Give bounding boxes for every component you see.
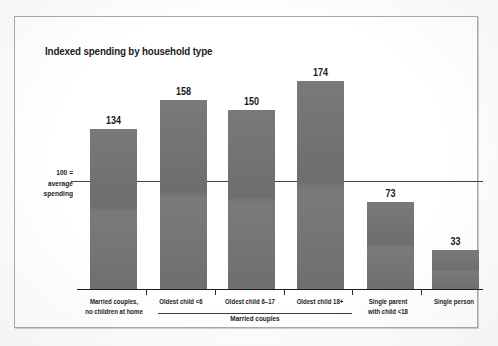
axis-tick: [352, 289, 353, 295]
chart-frame: Indexed spending by household type 100 =…: [14, 16, 478, 328]
axis-tick: [146, 289, 147, 295]
bar[interactable]: [90, 129, 137, 290]
reference-line-label-line-3: spending: [36, 189, 73, 200]
bar-value-label: 33: [434, 236, 476, 247]
bar[interactable]: [367, 202, 414, 290]
chart-title: Indexed spending by household type: [45, 45, 212, 57]
reference-line-label-line-2: average: [36, 179, 73, 190]
bar[interactable]: [228, 110, 275, 290]
plot-area: 134 158 150 174 73 33: [77, 57, 481, 290]
bar-value-label: 150: [230, 96, 272, 107]
bar[interactable]: [432, 250, 479, 290]
reference-line-label-line-1: 100 =: [36, 168, 73, 179]
bar-value-label: 134: [92, 115, 134, 126]
bar[interactable]: [160, 100, 207, 290]
bar-value-label: 73: [369, 188, 411, 199]
category-label-line: with child <18: [346, 307, 431, 317]
bar[interactable]: [297, 81, 344, 290]
axis-tick: [284, 289, 285, 295]
axis-tick: [421, 289, 422, 295]
group-bracket-label-married-couples: Married couples: [166, 315, 344, 322]
x-axis-line: [77, 289, 483, 290]
scanned-page: Indexed spending by household type 100 =…: [0, 0, 498, 346]
axis-tick: [215, 289, 216, 295]
bar-value-label: 158: [162, 86, 204, 97]
category-label-single-person: Single person: [412, 297, 497, 307]
bar-value-label: 174: [299, 67, 341, 78]
category-label-line: Single person: [412, 297, 497, 307]
group-bracket-line: [158, 313, 352, 314]
reference-line-label: 100 = average spending: [36, 168, 73, 200]
category-label-line: no children at home: [72, 307, 157, 317]
